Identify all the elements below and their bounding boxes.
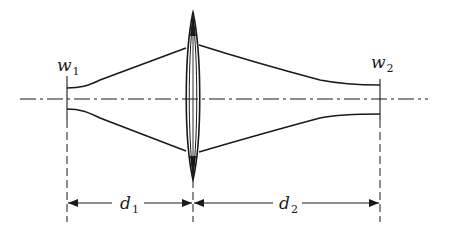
label-d1: d1 (120, 193, 139, 216)
thin-lens (186, 10, 200, 182)
lens-inner-left (189, 18, 193, 175)
label-d2: d2 (279, 193, 298, 216)
gaussian-beam-diagram: d1 d2 w1 w2 (0, 0, 450, 228)
dimension-d2: d2 (194, 193, 379, 216)
label-w1: w1 (57, 55, 80, 78)
beam-envelope-upper-right (199, 45, 380, 85)
beam-envelope-lower-right (199, 114, 380, 152)
dimension-d1: d1 (68, 193, 192, 216)
lens-inner-right (193, 18, 197, 175)
label-w2: w2 (371, 52, 394, 75)
beam-envelope-upper-left (67, 48, 186, 88)
beam-envelope-lower-left (67, 109, 186, 151)
